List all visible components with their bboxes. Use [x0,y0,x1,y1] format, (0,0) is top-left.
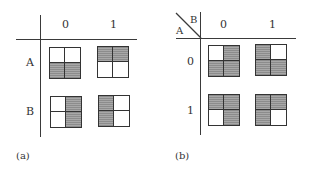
panel-a-row-header-A: A [26,57,34,68]
panel-b-cell-10 [208,94,240,126]
quadrant-bottom-left-shaded [256,60,271,75]
quadrant-bottom-left-shaded [50,63,65,78]
panel-b-caption: (b) [175,150,189,161]
panel-a-cell-B0 [50,96,82,128]
panel-a-horizontal-axis [16,39,137,40]
panel-b-corner-col-var: B [190,14,197,25]
quadrant-bottom-right-shaded [65,63,80,78]
quadrant-top-left-shaded [99,96,114,111]
quadrant-top-right-shaded [113,47,128,62]
quadrant-bottom-right [271,110,286,125]
panel-b-cell-01 [255,44,287,76]
panel-a-cell-A0 [49,47,81,79]
quadrant-top-right-shaded [271,95,286,110]
quadrant-bottom-left-shaded [209,61,224,76]
quadrant-bottom-left [98,62,113,77]
panel-b-vertical-axis [200,12,201,135]
panel-b-col-header-0: 0 [220,19,227,30]
quadrant-bottom-right-shaded [224,61,239,76]
quadrant-top-left [209,46,224,61]
panel-b-corner-row-var: A [176,25,183,36]
panel-a-cell-B1 [98,95,130,127]
quadrant-top-right-shaded [224,95,239,110]
panel-b-cell-11 [255,94,287,126]
panel-a-col-header-1: 1 [110,19,117,30]
panel-b-row-header-1: 1 [187,105,194,116]
panel-b-row-header-0: 0 [187,56,194,67]
quadrant-top-left-shaded [98,47,113,62]
quadrant-bottom-right [113,62,128,77]
quadrant-bottom-left [51,112,66,127]
quadrant-top-left [51,97,66,112]
quadrant-top-left-shaded [209,95,224,110]
quadrant-bottom-right [114,111,129,126]
quadrant-top-right [65,48,80,63]
panel-a-col-header-0: 0 [62,19,69,30]
panel-a-vertical-axis [40,15,41,137]
panel-b-cell-00 [208,45,240,77]
quadrant-bottom-right-shaded [224,110,239,125]
quadrant-top-right-shaded [66,97,81,112]
quadrant-top-left [50,48,65,63]
quadrant-bottom-left-shaded [99,111,114,126]
quadrant-top-left-shaded [256,45,271,60]
quadrant-top-right [271,45,286,60]
panel-a-caption: (a) [16,150,30,161]
quadrant-top-left-shaded [256,95,271,110]
panel-a-cell-A1 [97,46,129,78]
panel-b-col-header-1: 1 [269,19,276,30]
quadrant-bottom-right-shaded [66,112,81,127]
quadrant-bottom-left-shaded [256,110,271,125]
quadrant-top-right [114,96,129,111]
quadrant-bottom-right-shaded [271,60,286,75]
quadrant-top-right-shaded [224,46,239,61]
quadrant-bottom-left [209,110,224,125]
panel-b-horizontal-axis [176,38,296,39]
panel-a-row-header-B: B [26,106,34,117]
